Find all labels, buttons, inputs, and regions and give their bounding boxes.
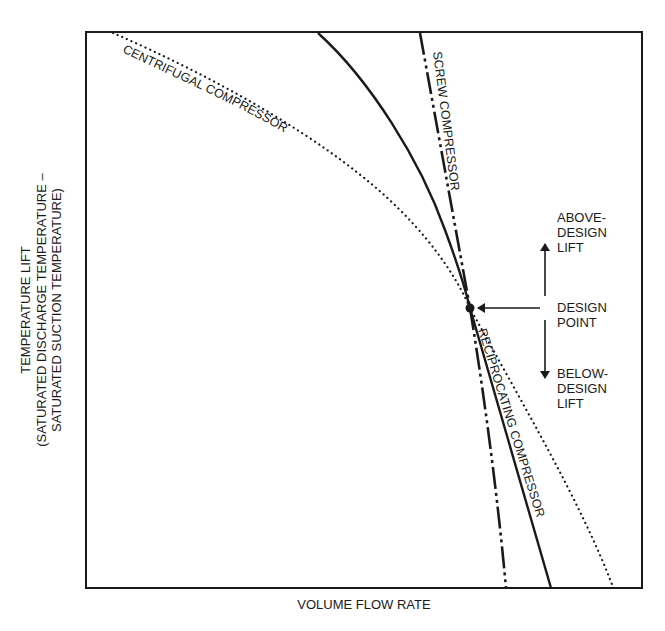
svg-text:TEMPERATURE LIFT: TEMPERATURE LIFT bbox=[18, 246, 33, 374]
y-axis-label: TEMPERATURE LIFT (SATURATED DISCHARGE TE… bbox=[18, 172, 64, 446]
x-axis-label: VOLUME FLOW RATE bbox=[297, 597, 431, 612]
svg-text:DESIGN: DESIGN bbox=[557, 381, 607, 396]
svg-text:POINT: POINT bbox=[557, 315, 597, 330]
centrifugal-label: CENTRIFUGAL COMPRESSOR bbox=[121, 42, 291, 135]
svg-text:LIFT: LIFT bbox=[557, 396, 584, 411]
svg-text:DESIGN: DESIGN bbox=[557, 225, 607, 240]
svg-text:SATURATED SUCTION TEMPERATURE): SATURATED SUCTION TEMPERATURE) bbox=[49, 188, 64, 432]
compressor-performance-chart: CENTRIFUGAL COMPRESSOR SCREW COMPRESSOR … bbox=[0, 0, 665, 631]
svg-text:(SATURATED DISCHARGE TEMPERATU: (SATURATED DISCHARGE TEMPERATURE – bbox=[34, 172, 49, 446]
design-point-marker bbox=[466, 304, 475, 313]
svg-text:DESIGN: DESIGN bbox=[557, 300, 607, 315]
svg-text:ABOVE-: ABOVE- bbox=[557, 210, 606, 225]
svg-text:BELOW-: BELOW- bbox=[557, 366, 608, 381]
below-design-lift-label: BELOW- DESIGN LIFT bbox=[557, 366, 608, 411]
screw-curve bbox=[420, 33, 506, 588]
design-point-label: DESIGN POINT bbox=[557, 300, 607, 330]
svg-text:LIFT: LIFT bbox=[557, 240, 584, 255]
above-design-lift-label: ABOVE- DESIGN LIFT bbox=[557, 210, 607, 255]
